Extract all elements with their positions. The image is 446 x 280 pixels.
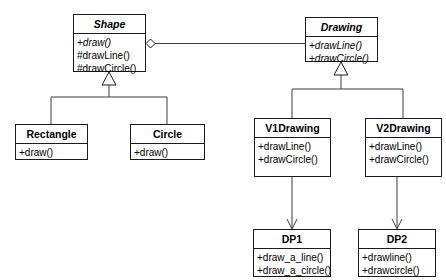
class-box-v2drawing[interactable]: V2Drawing +drawLine() +drawCircle() [365, 118, 442, 177]
class-title-dp2: DP2 [359, 230, 435, 249]
operation-item: +drawLine() [258, 140, 330, 153]
operation-item: +draw() [134, 146, 204, 159]
operation-item: +drawCircle() [369, 153, 441, 166]
operation-item: +draw_a_line() [257, 251, 330, 264]
class-title-dp1: DP1 [254, 230, 330, 249]
operation-item: +draw_a_circle() [257, 264, 330, 277]
class-operations-v1drawing: +drawLine() +drawCircle() [255, 138, 330, 168]
class-box-v1drawing[interactable]: V1Drawing +drawLine() +drawCircle() [254, 118, 331, 177]
operation-item: +drawLine() [369, 140, 441, 153]
class-title-v1drawing: V1Drawing [255, 119, 330, 138]
operation-item: +drawCircle() [309, 52, 377, 65]
operation-item: #drawCircle() [77, 62, 145, 75]
operation-item: +draw() [19, 146, 87, 159]
class-operations-drawing: +drawLine() +drawCircle() [306, 37, 377, 67]
operation-item: +draw() [77, 36, 145, 49]
uml-class-diagram-canvas: Shape +draw() #drawLine() #drawCircle() … [0, 0, 446, 280]
class-box-drawing[interactable]: Drawing +drawLine() +drawCircle() [305, 17, 378, 62]
class-box-dp2[interactable]: DP2 +drawline() +drawcircle() [358, 229, 436, 277]
class-operations-dp1: +draw_a_line() +draw_a_circle() [254, 249, 330, 279]
aggregation-diamond-icon [146, 39, 155, 48]
class-box-rectangle[interactable]: Rectangle +draw() [15, 124, 88, 160]
class-title-drawing: Drawing [306, 18, 377, 37]
class-title-circle: Circle [131, 125, 204, 144]
operation-item: +drawLine() [309, 39, 377, 52]
class-box-shape[interactable]: Shape +draw() #drawLine() #drawCircle() [73, 14, 146, 72]
class-operations-v2drawing: +drawLine() +drawCircle() [366, 138, 441, 168]
operation-item: +drawCircle() [258, 153, 330, 166]
operation-item: #drawLine() [77, 49, 145, 62]
class-title-shape: Shape [74, 15, 145, 34]
class-title-rectangle: Rectangle [16, 125, 87, 144]
class-operations-dp2: +drawline() +drawcircle() [359, 249, 435, 279]
class-operations-shape: +draw() #drawLine() #drawCircle() [74, 34, 145, 77]
operation-item: +drawcircle() [362, 264, 435, 277]
class-operations-circle: +draw() [131, 144, 204, 161]
class-title-v2drawing: V2Drawing [366, 119, 441, 138]
operation-item: +drawline() [362, 251, 435, 264]
class-box-circle[interactable]: Circle +draw() [130, 124, 205, 160]
class-operations-rectangle: +draw() [16, 144, 87, 161]
class-box-dp1[interactable]: DP1 +draw_a_line() +draw_a_circle() [253, 229, 331, 277]
